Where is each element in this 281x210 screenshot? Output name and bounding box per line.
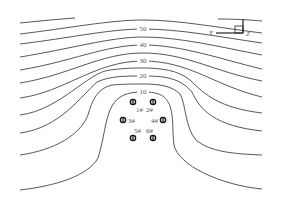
contour-label-20: 20 <box>140 72 148 80</box>
pile-1: 1# <box>130 99 143 114</box>
axis-label-z: Z <box>246 30 250 38</box>
contour-diagram: 50 40 30 20 10 Y Z 1# 2# 3# <box>0 0 281 210</box>
contour-label-40: 40 <box>140 41 148 49</box>
contour-label-30: 30 <box>140 57 148 65</box>
pile-2: 2# <box>146 99 156 114</box>
pile-label: 2# <box>146 106 154 114</box>
pile-label: 5# <box>134 127 142 135</box>
contour-label-50: 50 <box>140 25 148 33</box>
contour-label-10: 10 <box>140 88 148 96</box>
pile-label: 3# <box>128 117 136 125</box>
pile-label: 6# <box>146 127 154 135</box>
pile-3: 3# <box>120 117 135 125</box>
contour-line-top-left <box>20 18 75 23</box>
pile-5: 5# <box>130 127 141 141</box>
pile-6: 6# <box>146 127 156 141</box>
pile-label: 1# <box>136 106 144 114</box>
contour-line-top-right <box>218 19 262 21</box>
contour-plot: 50 40 30 20 10 Y Z 1# 2# 3# <box>0 0 281 210</box>
pile-4: 4# <box>151 117 166 125</box>
pile-label: 4# <box>151 117 159 125</box>
